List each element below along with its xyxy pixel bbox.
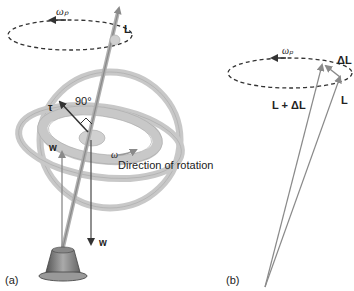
precession-symbol-b: ωₚ <box>282 46 293 56</box>
angular-momentum-label-a: L <box>124 24 131 35</box>
panel-a <box>8 8 186 281</box>
weight-label-down: w <box>99 238 107 248</box>
angular-momentum-label-b: L <box>341 95 348 106</box>
delta-L-vector <box>326 66 340 77</box>
panel-a-label: (a) <box>5 275 18 286</box>
gyroscope-stand <box>39 247 87 281</box>
torque-label: τ <box>48 103 52 113</box>
spin-symbol: ω <box>111 150 118 160</box>
delta-L-label: ΔL <box>337 55 352 66</box>
spin-caption: Direction of rotation <box>118 160 213 171</box>
panel-b-label: (b) <box>226 275 239 286</box>
precession-symbol-a: ωₚ <box>56 6 69 17</box>
sum-label: L + ΔL <box>272 100 306 111</box>
weight-label-up: w <box>49 143 57 153</box>
angle-label: 90° <box>75 96 92 107</box>
precession-path-b <box>228 58 352 88</box>
panel-b <box>228 58 352 287</box>
